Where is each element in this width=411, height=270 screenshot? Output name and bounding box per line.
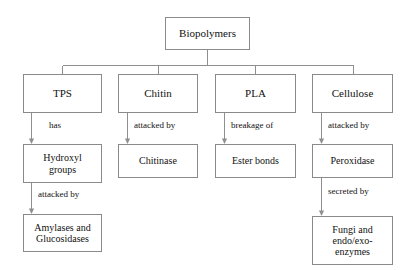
node-hydroxyl-groups-label: Hydroxyl groups [41,152,83,174]
node-amylases-glucosidases-label: Amylases and Glucosidases [32,222,92,244]
node-pla-label: PLA [243,87,268,99]
node-amylases-glucosidases[interactable]: Amylases and Glucosidases [23,214,102,252]
node-tps[interactable]: TPS [23,74,102,113]
node-chitinase[interactable]: Chitinase [118,144,198,178]
node-tps-label: TPS [51,87,74,99]
node-chitin-label: Chitin [142,87,174,99]
node-hydroxyl-groups[interactable]: Hydroxyl groups [23,144,102,183]
edge-label-cellulose-attacked-by: attacked by [328,120,369,130]
node-cellulose[interactable]: Cellulose [312,74,393,113]
node-chitin[interactable]: Chitin [118,74,198,113]
diagram-canvas: Biopolymers TPS Chitin PLA Cellulose has… [0,0,411,270]
node-cellulose-label: Cellulose [330,87,376,99]
edge-label-peroxidase-secreted-by: secreted by [328,186,369,196]
node-chitinase-label: Chitinase [137,155,179,166]
node-ester-bonds[interactable]: Ester bonds [215,144,296,178]
edge-label-chitin-attacked-by: attacked by [134,120,175,130]
edge-label-hydroxyl-attacked-by: attacked by [38,189,79,199]
node-pla[interactable]: PLA [215,74,296,113]
node-biopolymers-label: Biopolymers [177,27,238,39]
edge-label-tps-has: has [49,120,61,130]
node-peroxidase[interactable]: Peroxidase [312,144,393,178]
node-peroxidase-label: Peroxidase [329,155,377,166]
node-biopolymers[interactable]: Biopolymers [165,17,250,50]
node-fungi-enzymes[interactable]: Fungi and endo/exo- enzymes [312,216,393,265]
edge-label-pla-breakage-of: breakage of [231,120,273,130]
node-fungi-enzymes-label: Fungi and endo/exo- enzymes [330,224,374,258]
node-ester-bonds-label: Ester bonds [230,155,281,166]
